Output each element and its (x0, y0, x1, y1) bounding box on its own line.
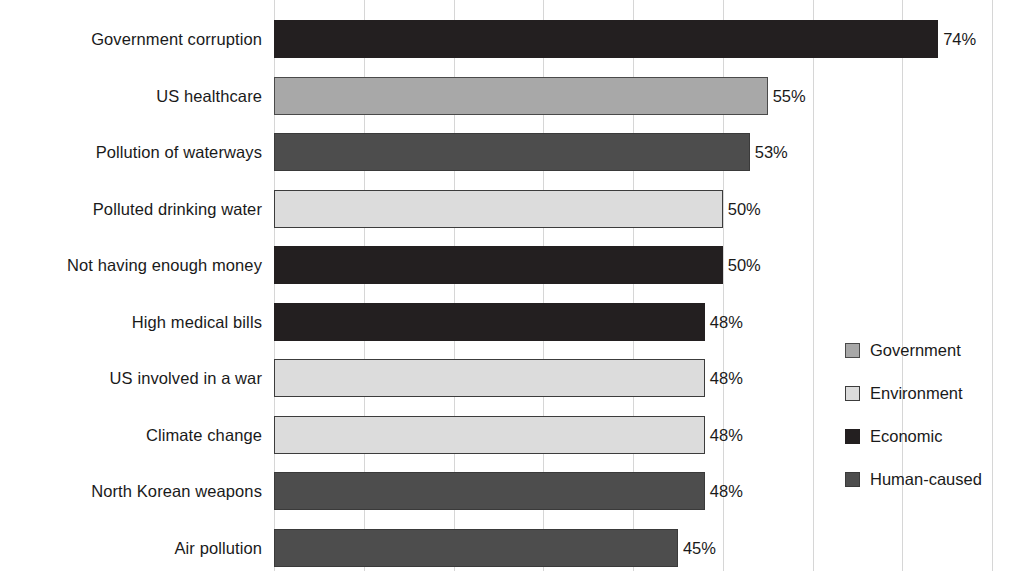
bar-value-label: 48% (705, 302, 743, 342)
category-label: Government corruption (0, 19, 262, 59)
bar (274, 190, 723, 228)
bar-rows: Government corruption74%US healthcare55%… (0, 0, 1018, 577)
chart-row: US involved in a war48% (0, 358, 1018, 398)
bar-value-label: 50% (723, 189, 761, 229)
bar (274, 20, 938, 58)
bar-value-label: 74% (938, 19, 976, 59)
bar (274, 359, 705, 397)
chart-row: High medical bills48% (0, 302, 1018, 342)
bar (274, 472, 705, 510)
legend-label: Environment (870, 383, 963, 403)
legend-label: Economic (870, 426, 942, 446)
category-label: Not having enough money (0, 245, 262, 285)
chart-row: North Korean weapons48% (0, 471, 1018, 511)
bar-value-label: 48% (705, 471, 743, 511)
category-label: High medical bills (0, 302, 262, 342)
legend-swatch-icon (845, 343, 860, 358)
chart-row: Pollution of waterways53% (0, 132, 1018, 172)
bar-chart: Government corruption74%US healthcare55%… (0, 0, 1018, 577)
legend-swatch-icon (845, 386, 860, 401)
legend-swatch-icon (845, 429, 860, 444)
bar-value-label: 53% (750, 132, 788, 172)
category-label: Air pollution (0, 528, 262, 568)
chart-row: Polluted drinking water50% (0, 189, 1018, 229)
category-label: Climate change (0, 415, 262, 455)
category-label: US healthcare (0, 76, 262, 116)
bar (274, 529, 678, 567)
bar (274, 416, 705, 454)
bar-value-label: 45% (678, 528, 716, 568)
category-label: Pollution of waterways (0, 132, 262, 172)
bar (274, 133, 750, 171)
bar-value-label: 48% (705, 415, 743, 455)
legend-label: Human-caused (870, 469, 982, 489)
legend-label: Government (870, 340, 961, 360)
chart-row: Climate change48% (0, 415, 1018, 455)
chart-row: US healthcare55% (0, 76, 1018, 116)
bar (274, 246, 723, 284)
bar-value-label: 55% (768, 76, 806, 116)
legend-swatch-icon (845, 472, 860, 487)
chart-row: Air pollution45% (0, 528, 1018, 568)
bar-value-label: 50% (723, 245, 761, 285)
bar (274, 303, 705, 341)
category-label: Polluted drinking water (0, 189, 262, 229)
bar (274, 77, 768, 115)
bar-value-label: 48% (705, 358, 743, 398)
category-label: US involved in a war (0, 358, 262, 398)
chart-row: Government corruption74% (0, 19, 1018, 59)
category-label: North Korean weapons (0, 471, 262, 511)
chart-row: Not having enough money50% (0, 245, 1018, 285)
